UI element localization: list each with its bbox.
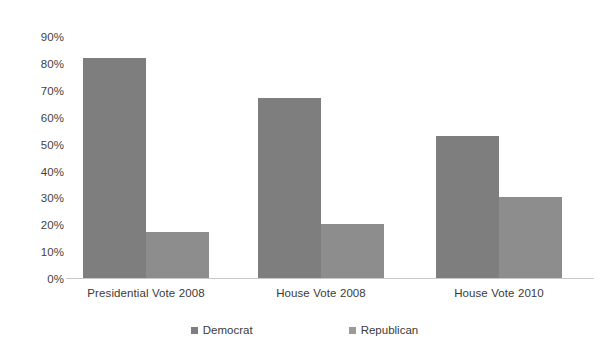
legend-entry-democrat: Democrat	[191, 324, 253, 337]
legend-label-democrat: Democrat	[203, 324, 253, 337]
x-axis-line	[66, 278, 594, 279]
x-tick-label-house-vote-2008: House Vote 2008	[241, 286, 401, 300]
x-axis: Presidential Vote 2008 House Vote 2008 H…	[0, 286, 609, 304]
bar-chart-figure: 90% 80% 70% 60% 50% 40% 30% 20% 10% 0% P…	[0, 0, 609, 349]
bar-democrat-house-2008	[258, 98, 321, 278]
bar-republican-presidential-2008	[146, 232, 209, 278]
x-tick-label-presidential-vote-2008: Presidential Vote 2008	[66, 286, 226, 300]
bar-republican-house-2010	[499, 197, 562, 278]
bar-democrat-house-2010	[436, 136, 499, 279]
chart-legend: Democrat Republican	[0, 320, 609, 340]
bar-democrat-presidential-2008	[83, 58, 146, 278]
legend-label-republican: Republican	[361, 324, 419, 337]
bar-republican-house-2008	[321, 224, 384, 278]
legend-swatch-icon	[191, 327, 198, 334]
legend-swatch-icon	[349, 327, 356, 334]
legend-entry-republican: Republican	[349, 324, 419, 337]
x-tick-label-house-vote-2010: House Vote 2010	[419, 286, 579, 300]
